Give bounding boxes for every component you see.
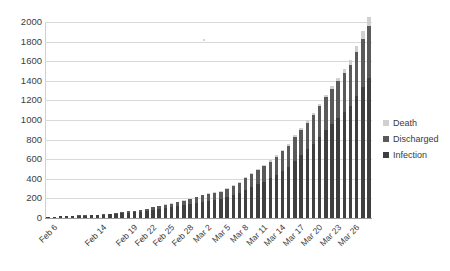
bar-segment-discharged bbox=[287, 146, 290, 167]
bar-stack bbox=[238, 182, 241, 218]
legend-swatch-icon bbox=[383, 120, 389, 126]
bar-segment-discharged bbox=[367, 26, 370, 78]
y-axis-tick-label: 1200 bbox=[2, 96, 42, 106]
bar-stack bbox=[275, 155, 278, 218]
bar-stack bbox=[343, 69, 346, 218]
bar-segment-discharged bbox=[355, 52, 358, 97]
bar-segment-infection bbox=[262, 182, 265, 218]
bar-segment-infection bbox=[361, 87, 364, 218]
x-axis-tick-label: Feb 6 bbox=[38, 223, 59, 244]
bar-stack bbox=[207, 193, 210, 218]
bar-segment-infection bbox=[349, 106, 352, 218]
bar-segment-discharged bbox=[330, 89, 333, 123]
bar-segment-infection bbox=[225, 197, 228, 218]
x-axis-tick-label: Mar 2 bbox=[192, 223, 213, 244]
chart-legend: DeathDischargedInfection bbox=[383, 116, 449, 164]
bar-segment-infection bbox=[367, 78, 370, 218]
bar-segment-discharged bbox=[269, 162, 272, 179]
bar-stack bbox=[269, 160, 272, 218]
bar-segment-infection bbox=[287, 167, 290, 218]
bar-segment-infection bbox=[336, 118, 339, 218]
bar-stack bbox=[139, 210, 142, 218]
bar-segment-discharged bbox=[244, 178, 247, 190]
bar-segment-infection bbox=[238, 193, 241, 218]
bar-segment-discharged bbox=[275, 157, 278, 175]
legend-item-infection[interactable]: Infection bbox=[383, 148, 449, 162]
bar-stack bbox=[213, 192, 216, 218]
legend-item-death[interactable]: Death bbox=[383, 116, 449, 130]
bar-segment-discharged bbox=[225, 189, 228, 197]
bar-stack bbox=[250, 173, 253, 218]
chart-container: 2000180016001400120010008006004002000 Fe… bbox=[0, 0, 450, 271]
bar-segment-infection bbox=[355, 96, 358, 218]
y-axis-tick-label: 1600 bbox=[2, 56, 42, 66]
bar-stack bbox=[176, 202, 179, 218]
bar-stack bbox=[127, 211, 130, 218]
bar-segment-discharged bbox=[312, 115, 315, 143]
bar-segment-infection bbox=[195, 203, 198, 218]
y-axis-tick-label: 0 bbox=[2, 213, 42, 223]
legend-item-label: Death bbox=[393, 119, 417, 128]
bar-segment-discharged bbox=[219, 192, 222, 199]
bar-segment-infection bbox=[157, 209, 160, 218]
bar-segment-infection bbox=[343, 112, 346, 218]
bar-segment-discharged bbox=[256, 170, 259, 184]
bar-series-group bbox=[45, 22, 372, 218]
bar-segment-infection bbox=[281, 171, 284, 218]
bar-stack bbox=[361, 31, 364, 218]
bar-segment-death bbox=[367, 17, 370, 26]
bar-stack bbox=[244, 177, 247, 218]
bar-segment-discharged bbox=[318, 106, 321, 136]
bar-stack bbox=[330, 86, 333, 218]
bar-segment-infection bbox=[318, 137, 321, 218]
bar-segment-infection bbox=[182, 205, 185, 218]
y-axis-tick-label: 800 bbox=[2, 135, 42, 145]
bar-segment-infection bbox=[219, 199, 222, 218]
bar-stack bbox=[201, 195, 204, 218]
bar-stack bbox=[133, 211, 136, 218]
bar-segment-discharged bbox=[343, 73, 346, 112]
bar-segment-discharged bbox=[336, 81, 339, 118]
bar-stack bbox=[349, 60, 352, 218]
bar-segment-infection bbox=[275, 175, 278, 218]
bar-segment-discharged bbox=[299, 130, 302, 155]
bar-stack bbox=[195, 197, 198, 218]
bar-segment-discharged bbox=[262, 166, 265, 181]
bar-segment-infection bbox=[145, 211, 148, 218]
bar-segment-infection bbox=[269, 178, 272, 218]
y-axis-tick-label: 400 bbox=[2, 174, 42, 184]
bar-stack bbox=[157, 206, 160, 218]
bar-stack bbox=[287, 144, 290, 218]
bar-stack bbox=[281, 150, 284, 218]
bar-stack bbox=[232, 185, 235, 218]
legend-item-label: Discharged bbox=[393, 135, 439, 144]
plot-area bbox=[45, 22, 372, 218]
bar-stack bbox=[306, 120, 309, 218]
y-axis-tick-label: 1000 bbox=[2, 115, 42, 125]
bar-stack bbox=[225, 188, 228, 218]
bar-segment-death bbox=[361, 31, 364, 38]
bar-segment-infection bbox=[170, 207, 173, 218]
bar-stack bbox=[170, 203, 173, 218]
bar-segment-discharged bbox=[232, 186, 235, 195]
bar-segment-infection bbox=[201, 202, 204, 218]
legend-item-discharged[interactable]: Discharged bbox=[383, 132, 449, 146]
bar-segment-discharged bbox=[293, 137, 296, 161]
y-axis-tick-labels: 2000180016001400120010008006004002000 bbox=[0, 22, 42, 218]
bar-stack bbox=[299, 128, 302, 218]
y-axis-tick-label: 1400 bbox=[2, 76, 42, 86]
bar-segment-infection bbox=[244, 190, 247, 218]
legend-swatch-icon bbox=[383, 136, 389, 142]
bar-segment-infection bbox=[299, 155, 302, 218]
bar-segment-infection bbox=[176, 206, 179, 218]
y-axis-tick-label: 2000 bbox=[2, 17, 42, 27]
bar-segment-discharged bbox=[306, 123, 309, 150]
bar-segment-infection bbox=[250, 187, 253, 218]
bar-stack bbox=[188, 199, 191, 218]
bar-segment-infection bbox=[293, 161, 296, 218]
bar-stack bbox=[151, 207, 154, 218]
stray-speck bbox=[203, 39, 205, 41]
y-axis-tick-label: 200 bbox=[2, 194, 42, 204]
bar-segment-infection bbox=[324, 130, 327, 218]
bar-column[interactable] bbox=[366, 22, 372, 218]
